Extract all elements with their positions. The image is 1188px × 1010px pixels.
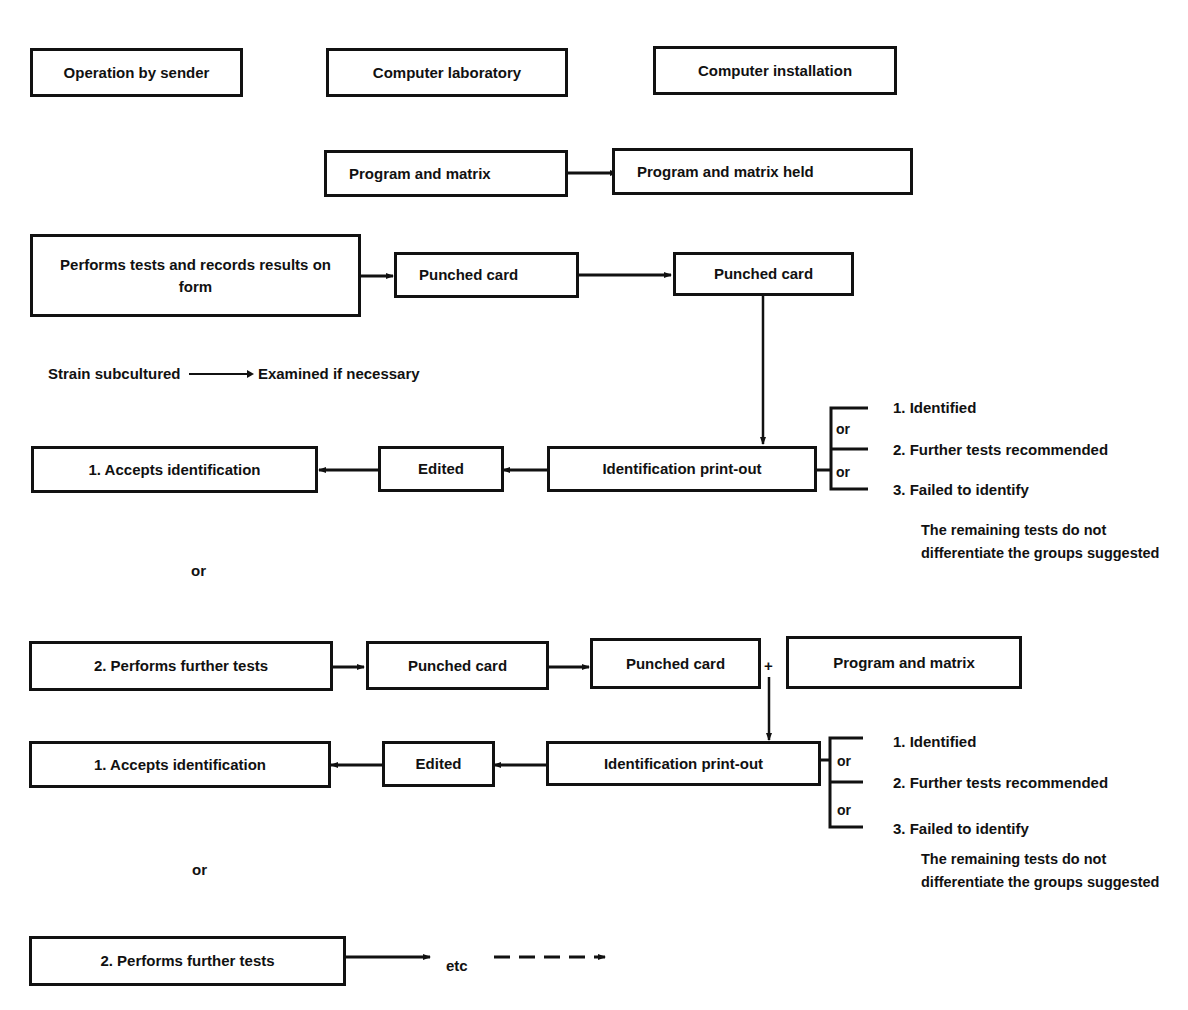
outcome-further-tests: 2. Further tests recommended (893, 440, 1108, 460)
box-label: Program and matrix (833, 652, 975, 674)
identification-printout-box-2: Identification print-out (546, 741, 821, 786)
box-label: Performs tests and records results on fo… (57, 254, 334, 298)
punched-card-box-4: Punched card (590, 638, 761, 689)
box-label: Edited (416, 753, 462, 775)
box-label: 2. Performs further tests (100, 950, 274, 972)
program-and-matrix-held-box: Program and matrix held (612, 148, 913, 195)
outcome-failed: 3. Failed to identify (893, 819, 1029, 839)
punched-card-box-2: Punched card (673, 252, 854, 296)
outcome-further-tests: 2. Further tests recommended (893, 773, 1108, 793)
header-computer-installation: Computer installation (653, 46, 897, 95)
edited-box: Edited (378, 446, 504, 492)
program-and-matrix-box-2: Program and matrix (786, 636, 1022, 689)
performs-further-tests-box: 2. Performs further tests (29, 641, 333, 691)
edited-box-2: Edited (382, 741, 495, 787)
outcome-note: The remaining tests do not differentiate… (921, 519, 1161, 565)
box-label: Punched card (626, 653, 725, 675)
box-label: Program and matrix (349, 163, 491, 185)
punched-card-box-3: Punched card (366, 641, 549, 690)
accepts-identification-box: 1. Accepts identification (31, 446, 318, 493)
header-operation-by-sender: Operation by sender (30, 48, 243, 97)
punched-card-box-1: Punched card (394, 252, 579, 298)
outcome-identified: 1. Identified (893, 732, 976, 752)
identification-printout-box: Identification print-out (547, 446, 817, 492)
box-label: Program and matrix held (637, 161, 814, 183)
header-computer-laboratory: Computer laboratory (326, 48, 568, 97)
box-label: Punched card (419, 264, 518, 286)
outcome-identified: 1. Identified (893, 398, 976, 418)
header-label: Operation by sender (64, 62, 210, 84)
header-label: Computer laboratory (373, 62, 521, 84)
box-label: Identification print-out (602, 458, 761, 480)
accepts-identification-box-2: 1. Accepts identification (29, 741, 331, 788)
box-label: Identification print-out (604, 753, 763, 775)
box-label: Punched card (408, 655, 507, 677)
or-label: or (837, 801, 851, 819)
outcome-failed: 3. Failed to identify (893, 480, 1029, 500)
box-label: Edited (418, 458, 464, 480)
box-label: 1. Accepts identification (94, 754, 266, 776)
or-label: or (837, 752, 851, 770)
outcome-note: The remaining tests do not differentiate… (921, 848, 1161, 894)
or-label: or (836, 463, 850, 481)
plus-sign: + (764, 656, 773, 676)
header-label: Computer installation (698, 60, 852, 82)
or-separator: or (191, 561, 206, 581)
strain-subcultured-label: Strain subcultured Examined if necessary (48, 364, 420, 384)
or-separator: or (192, 860, 207, 880)
etc-label: etc (446, 956, 468, 976)
box-label: 2. Performs further tests (94, 655, 268, 677)
performs-tests-box: Performs tests and records results on fo… (30, 234, 361, 317)
performs-further-tests-box-2: 2. Performs further tests (29, 936, 346, 986)
box-label: Punched card (714, 263, 813, 285)
program-and-matrix-box: Program and matrix (324, 150, 568, 197)
box-label: 1. Accepts identification (89, 459, 261, 481)
or-label: or (836, 420, 850, 438)
